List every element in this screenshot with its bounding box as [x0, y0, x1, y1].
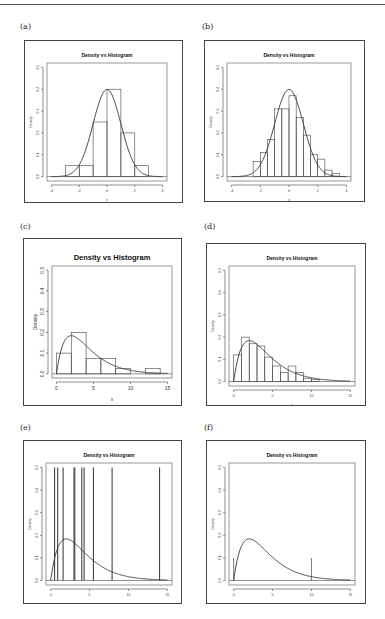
- y-tick-label: 0.5: [216, 65, 220, 70]
- histogram-bar: [116, 369, 131, 374]
- histogram-bar: [101, 358, 116, 374]
- x-tick-label: 2: [134, 189, 136, 193]
- chart-panel-e: Density vs Histogram0.00.10.20.30.40.5De…: [23, 440, 182, 604]
- y-tick-label: 0.4: [35, 488, 39, 493]
- y-axis-label: Density: [29, 116, 33, 128]
- x-axis-label: x: [288, 198, 290, 201]
- x-tick-label: 15: [165, 593, 169, 597]
- y-tick-label: 0.0: [216, 174, 220, 179]
- chart-panel-d: Density vs Histogram0.00.10.20.30.40.5De…: [206, 243, 366, 406]
- x-tick-label: 5: [272, 593, 274, 597]
- histogram-bar: [273, 366, 281, 382]
- panel-label-f: (f): [204, 423, 213, 432]
- y-tick-label: 0.1: [36, 152, 40, 157]
- histogram-bar: [265, 357, 273, 381]
- histogram-bar: [249, 344, 257, 382]
- y-tick-label: 0.0: [218, 379, 222, 384]
- x-tick-label: 0: [106, 189, 108, 193]
- plot-box: [52, 266, 172, 378]
- x-axis-label: x: [111, 396, 114, 402]
- y-tick-label: 0.5: [36, 65, 40, 70]
- x-tick-label: 5: [272, 394, 274, 398]
- x-tick-label: -2: [78, 189, 81, 193]
- plot-box: [229, 266, 355, 386]
- x-tick-label: -2: [259, 189, 262, 193]
- chart-title: Density vs Histogram: [81, 52, 133, 58]
- y-axis-label: Density: [209, 116, 213, 128]
- density-curve: [51, 539, 168, 581]
- y-tick-label: 0.5: [218, 268, 222, 273]
- y-tick-label: 0.4: [36, 87, 40, 92]
- chart-panel-b: Density vs Histogram0.00.10.20.30.40.5De…: [204, 40, 365, 202]
- chart-title: Density vs Histogram: [263, 52, 315, 58]
- chart-title: Density vs Histogram: [266, 255, 318, 261]
- chart-title: Density vs Histogram: [83, 452, 135, 458]
- x-tick-label: 5: [92, 385, 95, 391]
- x-tick-label: 0: [233, 394, 235, 398]
- chart-svg-a: Density vs Histogram0.00.10.20.30.40.5De…: [25, 41, 182, 202]
- x-tick-label: 15: [165, 385, 171, 391]
- y-tick-label: 0.1: [35, 555, 39, 560]
- x-tick-label: 4: [345, 189, 347, 193]
- histogram-bar: [253, 161, 260, 176]
- y-tick-label: 0.4: [218, 290, 222, 295]
- x-tick-label: 4: [162, 189, 164, 193]
- x-tick-label: 15: [348, 394, 352, 398]
- y-tick-label: 0.1: [218, 555, 222, 560]
- chart-panel-f: Density vs Histogram0.00.10.20.30.40.5De…: [206, 440, 366, 604]
- histogram-bar: [311, 379, 319, 381]
- y-tick-label: 0.5: [35, 465, 39, 470]
- histogram-bar: [56, 353, 71, 374]
- y-tick-label: 0.1: [216, 152, 220, 157]
- x-tick-label: -4: [230, 189, 233, 193]
- y-tick-label: 0.4: [216, 87, 220, 92]
- y-tick-label: 0.3: [218, 510, 222, 515]
- histogram-bar: [107, 89, 121, 176]
- y-axis-label: Density: [32, 313, 38, 330]
- y-axis-label: Density: [211, 320, 215, 332]
- histogram-bar: [260, 153, 267, 177]
- y-tick-label: 0.0: [218, 578, 222, 583]
- x-axis-label: x: [291, 602, 293, 603]
- chart-panel-c: Density vs Histogram0.00.10.20.30.40.5De…: [23, 238, 182, 406]
- top-rule: [0, 4, 385, 5]
- histogram-bar: [257, 346, 265, 382]
- x-tick-label: 2: [317, 189, 319, 193]
- plot-box: [229, 463, 355, 585]
- histogram-bar: [280, 373, 288, 382]
- y-tick-label: 0.2: [216, 130, 220, 135]
- y-tick-label: 0.2: [218, 533, 222, 538]
- y-tick-label: 0.3: [218, 312, 222, 317]
- density-curve: [234, 539, 351, 581]
- histogram-bar: [121, 133, 135, 177]
- chart-svg-c: Density vs Histogram0.00.10.20.30.40.5De…: [24, 239, 181, 405]
- x-tick-label: 10: [309, 593, 313, 597]
- panel-label-a: (a): [20, 22, 31, 31]
- y-tick-label: 0.3: [216, 109, 220, 114]
- x-tick-label: 15: [348, 593, 352, 597]
- x-tick-label: 0: [50, 593, 52, 597]
- y-tick-label: 0.0: [39, 370, 45, 377]
- chart-title: Density vs Histogram: [74, 253, 151, 262]
- x-axis-label: x: [108, 602, 110, 603]
- y-tick-label: 0.3: [39, 308, 45, 315]
- panel-label-d: (d): [204, 222, 215, 231]
- y-tick-label: 0.0: [35, 578, 39, 583]
- histogram-bar: [241, 337, 249, 381]
- histogram-bar: [79, 166, 93, 177]
- chart-svg-b: Density vs Histogram0.00.10.20.30.40.5De…: [205, 41, 364, 201]
- chart-title: Density vs Histogram: [266, 452, 318, 458]
- panel-label-e: (e): [20, 423, 31, 432]
- histogram-bar: [296, 118, 303, 177]
- histogram-bar: [303, 135, 310, 177]
- y-tick-label: 0.2: [39, 329, 45, 336]
- histogram-bar: [86, 358, 101, 374]
- y-tick-label: 0.3: [35, 510, 39, 515]
- y-tick-label: 0.4: [218, 488, 222, 493]
- plot-box: [46, 463, 172, 585]
- panel-label-b: (b): [202, 22, 213, 31]
- y-tick-label: 0.4: [39, 287, 45, 294]
- histogram-bar: [288, 366, 296, 382]
- histogram-bar: [304, 378, 312, 381]
- y-tick-label: 0.2: [218, 335, 222, 340]
